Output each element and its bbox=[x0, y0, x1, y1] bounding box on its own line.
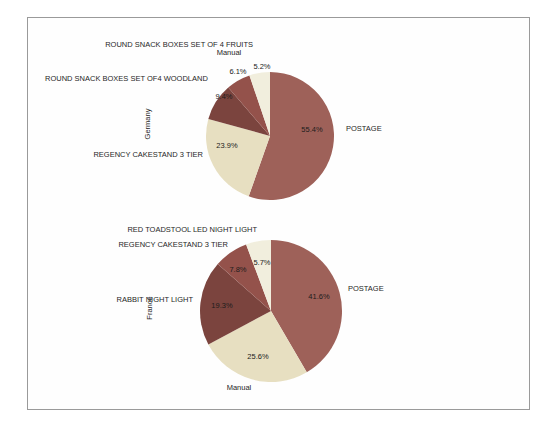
france-pct-manual: 25.6% bbox=[240, 352, 276, 361]
france-label-postage: POSTAGE bbox=[348, 284, 384, 293]
germany-pct-regency: 23.9% bbox=[209, 141, 245, 150]
france-label-rabbit-night-light: RABBIT NIGHT LIGHT bbox=[73, 295, 193, 304]
germany-pct-manual: 5.2% bbox=[244, 62, 280, 71]
france-label-manual: Manual bbox=[215, 383, 263, 392]
germany-label-round-snack-woodland: ROUND SNACK BOXES SET OF4 WOODLAND bbox=[45, 74, 203, 83]
france-label-red-toadstool: RED TOADSTOOL LED NIGHT LIGHT bbox=[107, 225, 257, 234]
france-pct-toadstool: 5.7% bbox=[244, 258, 280, 267]
germany-pct-postage: 55.4% bbox=[294, 125, 330, 134]
france-label-regency-cakestand: REGENCY CAKESTAND 3 TIER bbox=[78, 240, 228, 249]
germany-label-postage: POSTAGE bbox=[346, 124, 382, 133]
france-pct-rabbit: 19.3% bbox=[204, 301, 240, 310]
germany-label-manual: Manual bbox=[205, 48, 253, 57]
germany-pct-woodland: 9.4% bbox=[206, 92, 242, 101]
france-pct-postage: 41.6% bbox=[301, 292, 337, 301]
germany-label-regency-cakestand: REGENCY CAKESTAND 3 TIER bbox=[91, 150, 203, 159]
france-axis-label: France bbox=[145, 296, 154, 319]
germany-axis-label: Germany bbox=[143, 109, 152, 140]
